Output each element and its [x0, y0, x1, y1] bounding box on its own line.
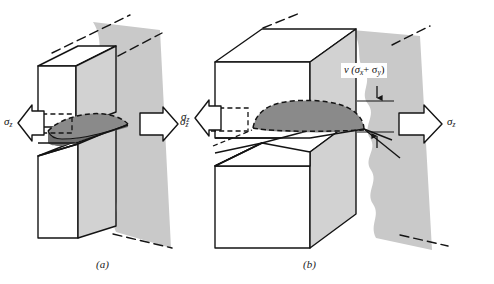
- panel-a: [18, 15, 178, 248]
- stress-label-right-b: σz: [447, 115, 455, 129]
- stress-label-left-a: σz: [4, 115, 12, 129]
- contraction-formula-label: ν (σx+ σy): [341, 63, 387, 78]
- panel-b: [195, 13, 448, 250]
- fracture-mechanics-diagram: [0, 0, 494, 284]
- caption-a: (a): [96, 258, 109, 270]
- stress-arrow-left-a: [18, 105, 44, 141]
- stress-label-left-b: σz: [181, 110, 189, 124]
- figure-canvas: σz σz σz σz ν (σx+ σy) (a) (b): [0, 0, 494, 284]
- caption-b: (b): [303, 258, 316, 270]
- stress-arrow-left-b: [195, 100, 221, 136]
